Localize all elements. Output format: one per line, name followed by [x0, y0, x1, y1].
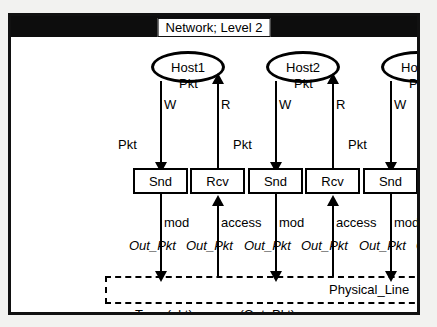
edge-label-mod-3: mod	[394, 215, 417, 230]
edge-host3-to-snd	[390, 81, 392, 164]
title-bar: Network; Level 2	[11, 16, 417, 37]
edge-label-pkt-1-left: Pkt	[118, 137, 137, 152]
snd-box-2-label: Snd	[264, 174, 287, 189]
edge-snd1-to-line	[160, 194, 162, 276]
edge-label-pkt-3-left: Pkt	[348, 137, 367, 152]
edge-host1-to-snd	[160, 81, 162, 164]
edge-label-pkt-1-mid: Pkt	[179, 76, 198, 91]
edge-label-pkt-3-mid: Pkt	[409, 76, 417, 91]
snd-box-2[interactable]: Snd	[248, 168, 303, 194]
caption-name: name(Out_Pkt)	[207, 307, 295, 315]
diagram-screenshot: Network; Level 2 Host1 W Pkt Snd mod Out…	[0, 0, 437, 327]
arrowhead-rcv2-to-host	[327, 73, 339, 84]
edge-snd3-to-line	[390, 194, 392, 276]
snd-box-1[interactable]: Snd	[133, 168, 188, 194]
edge-rcv1-to-host	[217, 81, 219, 168]
edge-label-pkt-2-mid: Pkt	[294, 76, 313, 91]
edge-rcv2-to-host	[332, 81, 334, 168]
rcv-box-1-label: Rcv	[206, 174, 228, 189]
edge-label-r-1: R	[221, 97, 230, 112]
edge-label-r-2: R	[336, 97, 345, 112]
edge-label-outpkt-rcv-1: Out_Pkt	[186, 238, 233, 253]
edge-label-w-3: W	[394, 97, 406, 112]
arrowhead-rcv1-to-host	[212, 73, 224, 84]
edge-snd2-to-line	[275, 194, 277, 276]
edge-label-outpkt-rcv-3: Out_P	[416, 238, 417, 253]
edge-label-w-2: W	[279, 97, 291, 112]
rcv-box-2[interactable]: Rcv	[305, 168, 360, 194]
physical-line-label: Physical_Line	[329, 282, 409, 297]
edge-label-mod-1: mod	[164, 215, 189, 230]
edge-host2-to-snd	[275, 81, 277, 164]
snd-box-3[interactable]: Snd	[363, 168, 417, 194]
edge-label-access-1: access	[221, 215, 261, 230]
caption-type: Type (pkt)	[135, 307, 193, 315]
edge-label-outpkt-snd-1: Out_Pkt	[129, 238, 176, 253]
diagram-canvas: Host1 W Pkt Snd mod Out_Pkt R Pkt Rcv	[11, 37, 417, 315]
rcv-box-1[interactable]: Rcv	[190, 168, 245, 194]
edge-label-access-2: access	[336, 215, 376, 230]
window-title: Network; Level 2	[158, 18, 271, 37]
arrowhead-line-to-rcv1	[212, 195, 224, 206]
edge-label-outpkt-snd-2: Out_Pkt	[244, 238, 291, 253]
edge-label-outpkt-snd-3: Out_Pkt	[359, 238, 406, 253]
window-frame: Network; Level 2 Host1 W Pkt Snd mod Out…	[8, 13, 420, 315]
snd-box-3-label: Snd	[379, 174, 402, 189]
rcv-box-2-label: Rcv	[321, 174, 343, 189]
edge-label-pkt-2-left: Pkt	[233, 137, 252, 152]
edge-label-w-1: W	[164, 97, 176, 112]
edge-label-mod-2: mod	[279, 215, 304, 230]
edge-label-outpkt-rcv-2: Out_Pkt	[301, 238, 348, 253]
arrowhead-line-to-rcv2	[327, 195, 339, 206]
snd-box-1-label: Snd	[149, 174, 172, 189]
